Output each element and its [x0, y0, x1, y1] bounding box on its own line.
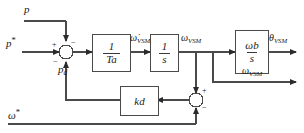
speed-error-sum-circle	[189, 93, 203, 107]
block-diagram: 1 Ta 1 s ωb s kd p p* pd ω* ω̇VSM ωVSM θ	[0, 0, 304, 133]
block-inertia-numerator: 1	[106, 41, 118, 52]
wire-damping-to-pd	[66, 88, 120, 100]
speed-error-sum-sign-bottom: −	[202, 104, 207, 112]
power-sum-circle	[59, 45, 73, 59]
block-integrator[interactable]: 1 s	[150, 34, 179, 72]
label-theta: θVSM	[269, 33, 287, 45]
power-sum-sign-top: −	[71, 39, 76, 47]
label-p-ref: p*	[6, 36, 16, 49]
block-integrator-denominator: s	[159, 53, 169, 65]
block-inertia-denominator: Ta	[103, 53, 120, 65]
speed-error-sum-sign-top: +	[202, 87, 207, 95]
label-p-damping: pd	[58, 64, 67, 77]
block-integrator-numerator: 1	[159, 41, 171, 52]
power-sum-sign-bottom: −	[53, 58, 58, 66]
block-angle-denominator: s	[247, 52, 257, 64]
block-damping[interactable]: kd	[120, 86, 159, 116]
block-damping-label: kd	[134, 95, 144, 107]
label-omega-out: ωVSM	[242, 66, 262, 78]
block-inertia[interactable]: 1 Ta	[92, 34, 131, 72]
power-sum-sign-left: +	[52, 41, 57, 49]
label-omega-dot: ω̇VSM	[130, 33, 150, 45]
label-omega: ωVSM	[181, 33, 201, 45]
block-angle-numerator: ωb	[242, 40, 261, 51]
label-p: p	[24, 4, 30, 15]
label-omega-ref: ω*	[8, 108, 20, 121]
